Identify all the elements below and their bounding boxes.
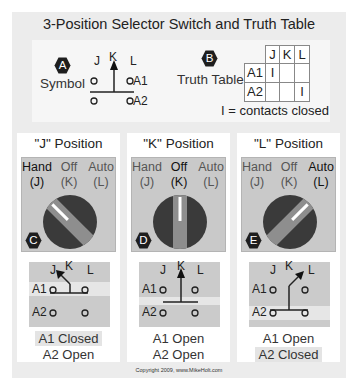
panel-j-position: "J" Position Hand(J) Off(K) Auto(L) C xyxy=(17,133,120,362)
diagram-contact-a1: A1 xyxy=(252,282,267,296)
pos-label-off: Off(K) xyxy=(52,160,86,190)
diagram-pos-j: J xyxy=(50,263,56,277)
state-a2: A2 Open xyxy=(17,347,120,362)
diagram-pos-k: K xyxy=(65,259,73,273)
contact-diagram: J K L A1 A2 xyxy=(29,262,110,327)
tt-a1-l xyxy=(294,63,310,83)
pos-label-auto: Auto(L) xyxy=(84,160,118,190)
tt-row-a2-label: A2 xyxy=(244,82,266,102)
tt-header-k: K xyxy=(279,45,295,64)
contact-diagram: J K L A1 A2 xyxy=(139,262,220,327)
truth-table-label: Truth Table xyxy=(177,72,244,87)
symbol-contact-a1: A1 xyxy=(133,74,148,88)
panel-l-position: "L" Position Hand(J) Off(K) Auto(L) E xyxy=(237,133,340,362)
pos-label-off: Off(K) xyxy=(272,160,306,190)
badge-b-icon: B xyxy=(201,50,218,67)
selector-knob-box: Hand(J) Off(K) Auto(L) D xyxy=(131,157,226,252)
diagram-pos-j: J xyxy=(160,263,166,277)
panel-k-position: "K" Position Hand(J) Off(K) Auto(L) D xyxy=(127,133,230,362)
badge-d-icon: D xyxy=(135,232,152,249)
tt-header-j: J xyxy=(265,45,280,64)
pos-label-hand: Hand(J) xyxy=(240,160,274,190)
tt-a1-j: I xyxy=(265,63,280,83)
pos-label-auto: Auto(L) xyxy=(194,160,228,190)
contact-diagram: J K L A1 A2 xyxy=(249,262,330,327)
diagram-title: 3-Position Selector Switch and Truth Tab… xyxy=(12,16,346,32)
pos-label-off: Off(K) xyxy=(162,160,196,190)
selector-knob-icon xyxy=(262,194,318,250)
panel-title: "L" Position xyxy=(237,136,340,151)
diagram-pos-l: L xyxy=(197,263,204,277)
diagram-pos-k: K xyxy=(177,259,185,273)
state-a1: A1 Open xyxy=(237,331,340,346)
truth-table-legend: I = contacts closed xyxy=(221,103,329,118)
diagram-pos-l: L xyxy=(308,263,315,277)
tt-a1-k xyxy=(279,63,295,83)
selector-knob-icon xyxy=(42,194,98,250)
panel-title: "K" Position xyxy=(127,136,230,151)
badge-e-icon: E xyxy=(245,232,262,249)
copyright-text: Copyright 2009, www.MikeHolt.com xyxy=(12,367,346,373)
state-a1: A1 Closed xyxy=(17,331,120,346)
diagram-contact-a1: A1 xyxy=(32,282,47,296)
diagram-pos-j: J xyxy=(270,263,276,277)
selector-knob-icon xyxy=(152,194,208,250)
pos-label-hand: Hand(J) xyxy=(20,160,54,190)
diagram-contact-a1: A1 xyxy=(142,282,157,296)
diagram-contact-a2: A2 xyxy=(32,305,47,319)
tt-a2-l: I xyxy=(294,82,310,102)
state-a1: A1 Open xyxy=(127,331,230,346)
diagram-pos-l: L xyxy=(87,263,94,277)
diagram-pos-k: K xyxy=(285,259,293,273)
pos-label-auto: Auto(L) xyxy=(304,160,338,190)
state-a2: A2 Open xyxy=(127,347,230,362)
selector-knob-box: Hand(J) Off(K) Auto(L) E xyxy=(241,157,336,252)
diagram-contact-a2: A2 xyxy=(252,305,267,319)
tt-a2-j xyxy=(265,82,280,102)
tt-a2-k xyxy=(279,82,295,102)
symbol-contact-a2: A2 xyxy=(133,94,148,108)
diagram-contact-a2: A2 xyxy=(142,305,157,319)
pos-label-hand: Hand(J) xyxy=(130,160,164,190)
symbol-label: Symbol xyxy=(40,76,85,91)
tt-row-a1-label: A1 xyxy=(244,63,266,83)
panel-title: "J" Position xyxy=(17,136,120,151)
badge-a-icon: A xyxy=(54,57,71,74)
badge-c-icon: C xyxy=(25,232,42,249)
tt-header-l: L xyxy=(294,45,310,64)
selector-knob-box: Hand(J) Off(K) Auto(L) C xyxy=(21,157,116,252)
state-a2: A2 Closed xyxy=(237,347,340,362)
